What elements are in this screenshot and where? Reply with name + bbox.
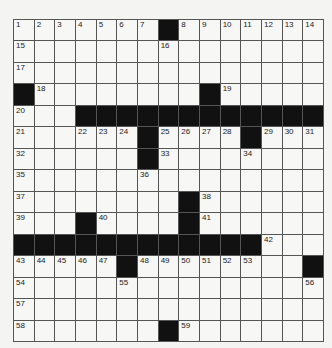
grid-cell[interactable] xyxy=(138,321,158,341)
grid-cell[interactable] xyxy=(303,170,323,190)
grid-cell[interactable] xyxy=(76,299,96,319)
grid-cell[interactable] xyxy=(138,278,158,298)
grid-cell[interactable]: 48 xyxy=(138,256,158,276)
grid-cell[interactable] xyxy=(117,192,137,212)
grid-cell[interactable]: 42 xyxy=(262,235,282,255)
grid-cell[interactable] xyxy=(138,192,158,212)
grid-cell[interactable] xyxy=(55,149,75,169)
grid-cell[interactable] xyxy=(117,63,137,83)
grid-cell[interactable] xyxy=(262,299,282,319)
grid-cell[interactable] xyxy=(97,299,117,319)
grid-cell[interactable] xyxy=(35,213,55,233)
grid-cell[interactable] xyxy=(97,278,117,298)
grid-cell[interactable] xyxy=(97,41,117,61)
grid-cell[interactable]: 26 xyxy=(179,127,199,147)
grid-cell[interactable] xyxy=(138,41,158,61)
grid-cell[interactable]: 56 xyxy=(303,278,323,298)
grid-cell[interactable] xyxy=(179,149,199,169)
grid-cell[interactable] xyxy=(76,278,96,298)
grid-cell[interactable] xyxy=(35,106,55,126)
grid-cell[interactable] xyxy=(35,299,55,319)
grid-cell[interactable]: 18 xyxy=(35,84,55,104)
grid-cell[interactable]: 37 xyxy=(14,192,34,212)
grid-cell[interactable] xyxy=(241,63,261,83)
grid-cell[interactable]: 32 xyxy=(14,149,34,169)
grid-cell[interactable] xyxy=(303,235,323,255)
grid-cell[interactable] xyxy=(159,192,179,212)
grid-cell[interactable]: 51 xyxy=(200,256,220,276)
grid-cell[interactable] xyxy=(303,84,323,104)
grid-cell[interactable] xyxy=(97,170,117,190)
grid-cell[interactable] xyxy=(283,170,303,190)
grid-cell[interactable] xyxy=(35,192,55,212)
grid-cell[interactable]: 58 xyxy=(14,321,34,341)
grid-cell[interactable]: 22 xyxy=(76,127,96,147)
grid-cell[interactable]: 47 xyxy=(97,256,117,276)
grid-cell[interactable] xyxy=(76,170,96,190)
grid-cell[interactable] xyxy=(117,41,137,61)
grid-cell[interactable] xyxy=(241,192,261,212)
grid-cell[interactable] xyxy=(55,213,75,233)
grid-cell[interactable] xyxy=(303,192,323,212)
grid-cell[interactable] xyxy=(55,321,75,341)
grid-cell[interactable] xyxy=(117,321,137,341)
grid-cell[interactable] xyxy=(200,63,220,83)
grid-cell[interactable]: 57 xyxy=(14,299,34,319)
grid-cell[interactable]: 2 xyxy=(35,20,55,40)
grid-cell[interactable]: 23 xyxy=(97,127,117,147)
grid-cell[interactable]: 43 xyxy=(14,256,34,276)
grid-cell[interactable]: 54 xyxy=(14,278,34,298)
grid-cell[interactable]: 3 xyxy=(55,20,75,40)
grid-cell[interactable] xyxy=(159,278,179,298)
grid-cell[interactable] xyxy=(159,170,179,190)
grid-cell[interactable] xyxy=(159,84,179,104)
grid-cell[interactable]: 35 xyxy=(14,170,34,190)
grid-cell[interactable]: 20 xyxy=(14,106,34,126)
grid-cell[interactable]: 11 xyxy=(241,20,261,40)
grid-cell[interactable] xyxy=(283,235,303,255)
grid-cell[interactable] xyxy=(55,170,75,190)
grid-cell[interactable] xyxy=(138,84,158,104)
grid-cell[interactable] xyxy=(76,41,96,61)
grid-cell[interactable] xyxy=(221,63,241,83)
grid-cell[interactable]: 6 xyxy=(117,20,137,40)
grid-cell[interactable] xyxy=(97,63,117,83)
grid-cell[interactable] xyxy=(179,299,199,319)
grid-cell[interactable] xyxy=(283,63,303,83)
grid-cell[interactable]: 29 xyxy=(262,127,282,147)
grid-cell[interactable] xyxy=(117,149,137,169)
grid-cell[interactable] xyxy=(55,63,75,83)
grid-cell[interactable] xyxy=(262,84,282,104)
grid-cell[interactable] xyxy=(283,213,303,233)
grid-cell[interactable]: 41 xyxy=(200,213,220,233)
grid-cell[interactable] xyxy=(138,213,158,233)
grid-cell[interactable] xyxy=(117,213,137,233)
grid-cell[interactable] xyxy=(221,299,241,319)
grid-cell[interactable] xyxy=(97,321,117,341)
grid-cell[interactable] xyxy=(117,84,137,104)
grid-cell[interactable]: 59 xyxy=(179,321,199,341)
grid-cell[interactable] xyxy=(262,41,282,61)
grid-cell[interactable] xyxy=(179,278,199,298)
grid-cell[interactable] xyxy=(97,149,117,169)
grid-cell[interactable] xyxy=(283,321,303,341)
grid-cell[interactable] xyxy=(303,213,323,233)
grid-cell[interactable] xyxy=(76,63,96,83)
grid-cell[interactable] xyxy=(97,192,117,212)
grid-cell[interactable] xyxy=(35,170,55,190)
grid-cell[interactable] xyxy=(117,299,137,319)
grid-cell[interactable] xyxy=(200,41,220,61)
grid-cell[interactable]: 21 xyxy=(14,127,34,147)
grid-cell[interactable]: 28 xyxy=(221,127,241,147)
grid-cell[interactable] xyxy=(76,149,96,169)
grid-cell[interactable] xyxy=(241,41,261,61)
grid-cell[interactable] xyxy=(221,213,241,233)
grid-cell[interactable]: 45 xyxy=(55,256,75,276)
grid-cell[interactable]: 36 xyxy=(138,170,158,190)
grid-cell[interactable] xyxy=(55,106,75,126)
grid-cell[interactable]: 49 xyxy=(159,256,179,276)
grid-cell[interactable] xyxy=(303,41,323,61)
grid-cell[interactable] xyxy=(200,299,220,319)
grid-cell[interactable] xyxy=(283,192,303,212)
grid-cell[interactable] xyxy=(221,278,241,298)
